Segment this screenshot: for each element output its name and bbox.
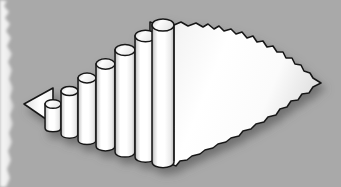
- bar-cylinder-2: [61, 86, 78, 138]
- bar-cap-2: [61, 86, 78, 95]
- bar-cap-3: [78, 73, 96, 83]
- bar-cap-1: [45, 100, 61, 109]
- bar-cylinder-1: [45, 100, 61, 132]
- bar-cylinder-5: [115, 45, 135, 158]
- bar-cylinder-3: [78, 73, 96, 144]
- cylinder-bar-chart-clipart: [0, 0, 341, 187]
- illustration-canvas: Ascending 3D cylinder bar chart on torn …: [0, 0, 341, 187]
- bar-cylinder-7: [152, 19, 174, 168]
- bar-cylinder-4: [96, 59, 115, 151]
- bar-cap-5: [115, 45, 135, 56]
- bar-cap-7: [152, 19, 174, 31]
- bar-cap-4: [96, 59, 115, 69]
